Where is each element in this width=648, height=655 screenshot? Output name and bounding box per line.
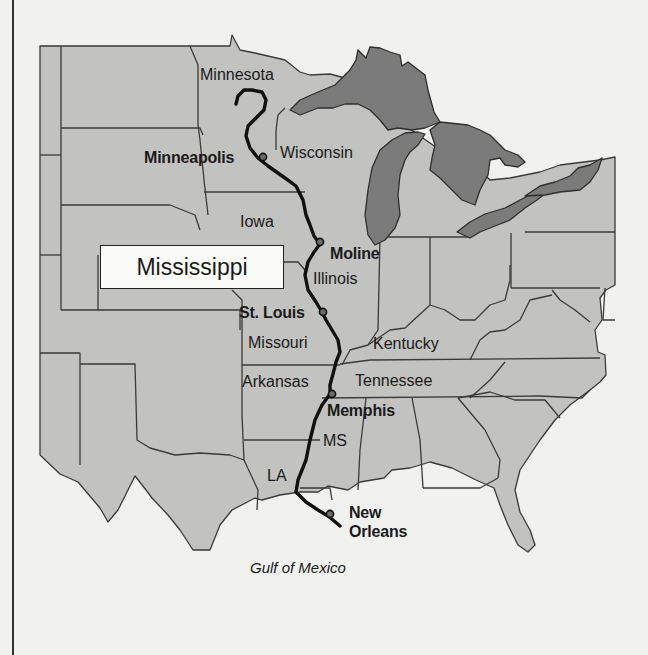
land-mass [40,35,615,552]
city-label-st-louis: St. Louis [239,305,305,321]
state-label-minnesota: Minnesota [200,67,274,83]
minneapolis-marker [259,153,266,160]
map-figure: Mississippi Minnesota Wisconsin Iowa Ill… [0,0,648,655]
memphis-marker [328,390,335,397]
state-label-la: LA [267,468,287,484]
state-label-missouri: Missouri [248,335,308,351]
state-label-illinois: Illinois [313,271,357,287]
state-label-iowa: Iowa [240,214,274,230]
state-label-ms: MS [323,433,347,449]
state-label-wisconsin: Wisconsin [280,145,353,161]
water-label-gulf-of-mexico: Gulf of Mexico [250,560,346,575]
city-label-memphis: Memphis [327,403,395,419]
map-title: Mississippi [136,254,247,281]
new-orleans-marker [326,510,333,517]
moline-marker [316,238,323,245]
map-title-box: Mississippi [100,245,284,289]
state-label-tennessee: Tennessee [355,373,432,389]
eastern-us-map [0,0,648,655]
state-label-arkansas: Arkansas [242,374,309,390]
state-label-kentucky: Kentucky [373,336,439,352]
city-label-moline: Moline [330,246,379,262]
city-label-new-orleans-line2: Orleans [349,524,407,540]
st-louis-marker [319,308,326,315]
city-label-minneapolis: Minneapolis [144,150,234,166]
city-label-new-orleans-line1: New [349,505,381,521]
